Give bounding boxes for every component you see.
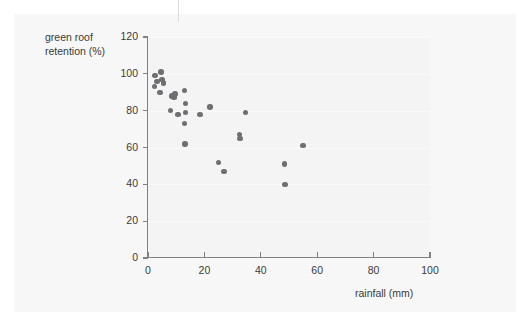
scatter-point bbox=[158, 69, 163, 74]
scatter-point bbox=[175, 112, 180, 117]
scatter-point bbox=[282, 161, 287, 166]
scatter-point bbox=[182, 121, 187, 126]
scatter-point bbox=[300, 143, 305, 148]
scatter-point bbox=[237, 136, 242, 141]
scatter-point bbox=[183, 101, 188, 106]
scatter-point bbox=[182, 88, 187, 93]
scatter-point bbox=[183, 110, 188, 115]
scatter-point bbox=[168, 108, 173, 113]
scatter-point bbox=[152, 73, 157, 78]
scatter-point bbox=[197, 112, 202, 117]
scatter-point bbox=[182, 141, 187, 146]
scatter-points-layer bbox=[0, 0, 532, 325]
figure-canvas: green roof retention (%) rainfall (mm) 0… bbox=[0, 0, 532, 325]
scatter-point bbox=[282, 182, 287, 187]
scatter-point bbox=[216, 160, 221, 165]
scatter-point bbox=[157, 90, 162, 95]
scatter-point bbox=[161, 80, 166, 85]
scatter-point bbox=[207, 104, 212, 109]
scatter-point bbox=[243, 110, 248, 115]
scatter-point bbox=[172, 91, 177, 96]
scatter-point bbox=[152, 84, 157, 89]
scatter-point bbox=[221, 169, 226, 174]
